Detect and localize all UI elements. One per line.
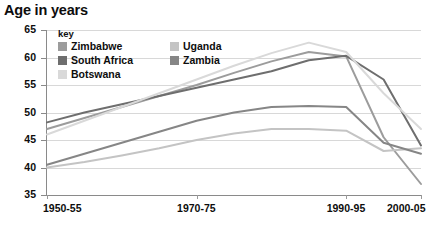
legend-label: Zimbabwe [71,40,122,52]
legend-item-south-africa[interactable]: South Africa [58,54,133,66]
legend-swatch-icon [170,42,179,51]
legend-swatch-icon [58,70,67,79]
legend-swatch-icon [58,42,67,51]
legend-swatch-icon [170,56,179,65]
legend-label: Zambia [183,54,220,66]
legend-label: Uganda [183,40,222,52]
chart-container: Age in years 35404550556065 1950-551970-… [0,0,428,233]
legend-label: South Africa [71,54,133,66]
legend-title: key [58,28,288,39]
legend: key ZimbabweSouth AfricaBotswanaUgandaZa… [58,28,288,82]
legend-item-zambia[interactable]: Zambia [170,54,220,66]
legend-item-uganda[interactable]: Uganda [170,40,222,52]
legend-items: ZimbabweSouth AfricaBotswanaUgandaZambia [58,40,290,82]
legend-item-botswana[interactable]: Botswana [58,68,121,80]
legend-swatch-icon [58,56,67,65]
legend-label: Botswana [71,68,121,80]
legend-item-zimbabwe[interactable]: Zimbabwe [58,40,122,52]
